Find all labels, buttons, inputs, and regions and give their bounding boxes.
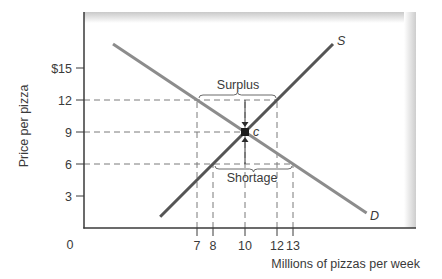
- y-axis-ticks: 36912$15: [51, 62, 84, 204]
- supply-demand-chart: 36912$15 78101213 0 Price per pizza Mill…: [0, 0, 442, 279]
- axes: [83, 12, 416, 229]
- x-tick-label: 8: [210, 239, 217, 253]
- x-tick-label: 7: [194, 239, 201, 253]
- demand-curve: [113, 44, 367, 213]
- y-tick-label: 9: [65, 126, 72, 140]
- y-tick-label: 6: [65, 158, 72, 172]
- arrow-head-icon: [242, 137, 249, 142]
- equilibrium-marker: [241, 128, 249, 136]
- x-axis-ticks: 78101213: [194, 228, 300, 253]
- plot-frame-right-shade: [404, 12, 416, 228]
- arrow-head-icon: [242, 122, 249, 127]
- y-tick-label: 3: [65, 190, 72, 204]
- demand-curve-label: D: [370, 209, 379, 223]
- x-tick-label: 10: [238, 239, 252, 253]
- supply-curve-label: S: [337, 34, 346, 48]
- equilibrium-label: c: [253, 125, 260, 139]
- x-tick-label: 13: [286, 239, 300, 253]
- curves: [113, 44, 367, 217]
- y-axis-title: Price per pizza: [17, 85, 31, 168]
- origin-label: 0: [67, 238, 74, 252]
- surplus-label: Surplus: [217, 78, 259, 92]
- y-tick-label: 12: [58, 94, 72, 108]
- equilibrium-point: [241, 128, 249, 136]
- x-tick-label: 12: [270, 239, 284, 253]
- x-axis-title: Millions of pizzas per week: [271, 257, 420, 271]
- surplus-brace: [199, 92, 276, 98]
- plot-frame: [84, 12, 416, 228]
- reference-dashed-lines: [84, 100, 293, 228]
- shortage-label: Shortage: [227, 171, 278, 185]
- y-tick-label: $15: [51, 62, 72, 76]
- plot-frame-top-shade: [84, 12, 416, 23]
